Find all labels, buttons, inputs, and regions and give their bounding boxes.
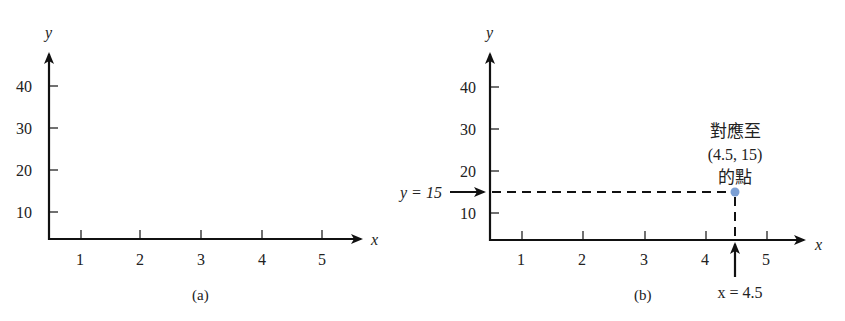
x-tick-label: 4 [701,251,709,268]
y-tick-label: 40 [16,78,32,95]
x-tick-label: 1 [76,251,84,268]
x-marker-label: x = 4.5 [717,284,762,301]
point-label-line1: 對應至 [710,121,761,141]
chart-a: y x 40 30 20 10 1 2 3 4 5 (a) [16,24,378,304]
y-tick-label: 20 [16,162,32,179]
x-tick-label: 2 [136,251,144,268]
y-tick-label: 20 [460,163,476,180]
y-tick-label: 10 [16,204,32,221]
x-tick-label: 2 [578,251,586,268]
caption-a: (a) [192,287,209,304]
x-tick-label: 1 [517,251,525,268]
chart-b: y x 40 30 20 10 1 2 3 4 5 對應至 (4.5, 15) … [398,24,822,304]
y-marker-label: y = 15 [398,184,442,202]
x-tick-label: 5 [318,251,326,268]
y-axis-label: y [484,24,494,42]
y-tick-label: 30 [460,121,476,138]
point-label-line2: (4.5, 15) [708,146,763,164]
y-tick-label: 30 [16,120,32,137]
data-point [731,188,740,197]
y-axis-label: y [43,24,53,42]
y-tick-label: 10 [460,205,476,222]
x-tick-label: 3 [197,251,205,268]
figure: y x 40 30 20 10 1 2 3 4 5 (a) y x 40 [0,0,845,321]
x-tick-label: 5 [762,251,770,268]
point-label-line3: 的點 [718,167,752,187]
y-tick-label: 40 [460,79,476,96]
x-axis-label: x [814,236,822,253]
caption-b: (b) [634,287,652,304]
x-tick-label: 3 [640,251,648,268]
x-tick-label: 4 [258,251,266,268]
x-axis-label: x [370,231,378,248]
